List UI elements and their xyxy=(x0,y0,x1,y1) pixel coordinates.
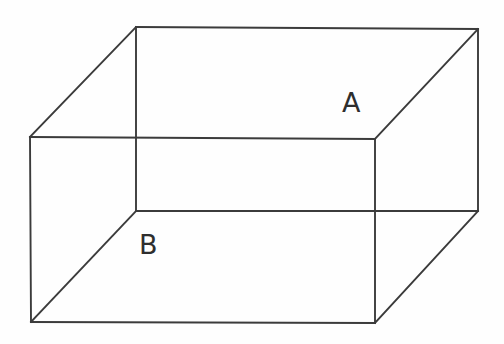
edge-connector-top-left xyxy=(30,27,136,137)
figure-canvas: A B xyxy=(0,0,504,344)
edge-back-top xyxy=(136,27,478,29)
edge-front-left xyxy=(30,137,31,322)
edge-front-bottom xyxy=(31,322,375,323)
edge-connector-top-right xyxy=(375,29,478,139)
edge-connector-bottom-left xyxy=(31,211,136,322)
vertex-label-a: A xyxy=(342,89,360,116)
edge-front-top xyxy=(30,137,375,139)
vertex-label-b: B xyxy=(139,231,158,258)
edge-connector-bottom-right xyxy=(375,211,478,323)
cuboid-wireframe xyxy=(0,0,504,344)
